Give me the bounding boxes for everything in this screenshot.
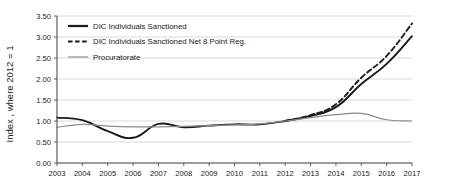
x-tick-label-9: 2012 [277, 169, 294, 178]
legend-label-0: DIC Individuals Sanctioned [93, 22, 187, 31]
y-tick-label-7: 3.50 [36, 12, 51, 21]
x-tick-label-5: 2008 [175, 169, 192, 178]
x-tick-label-3: 2006 [125, 169, 142, 178]
y-tick-label-6: 3.00 [36, 33, 51, 42]
x-tick-label-10: 2013 [302, 169, 319, 178]
chart-background [0, 0, 455, 188]
x-tick-labels-group: 2003200420052006200720082009201020112012… [49, 169, 421, 178]
y-tick-label-1: 0.50 [36, 138, 51, 147]
y-tick-label-0: 0.00 [36, 159, 51, 168]
x-tick-label-11: 2014 [327, 169, 344, 178]
y-tick-label-3: 1.50 [36, 96, 51, 105]
x-tick-label-12: 2015 [353, 169, 370, 178]
x-tick-label-4: 2007 [150, 169, 167, 178]
y-tick-label-5: 2.50 [36, 54, 51, 63]
x-tick-label-0: 2003 [49, 169, 66, 178]
legend-label-2: Procuratorate [93, 53, 140, 62]
x-tick-label-6: 2009 [201, 169, 218, 178]
line-chart-figure: 0.000.501.001.502.002.503.003.50 2003200… [0, 0, 455, 188]
x-tick-label-2: 2005 [99, 169, 116, 178]
y-axis-title: Index , where 2012 = 1 [4, 46, 15, 143]
y-tick-label-2: 1.00 [36, 117, 51, 126]
y-tick-label-4: 2.00 [36, 75, 51, 84]
x-tick-label-1: 2004 [74, 169, 91, 178]
legend-label-1: DIC Individuals Sanctioned Net 8 Point R… [93, 37, 246, 46]
x-tick-label-14: 2017 [404, 169, 421, 178]
x-tick-label-7: 2010 [226, 169, 243, 178]
x-tick-label-8: 2011 [252, 169, 268, 178]
chart-canvas: 0.000.501.001.502.002.503.003.50 2003200… [0, 0, 455, 188]
x-tick-label-13: 2016 [378, 169, 395, 178]
